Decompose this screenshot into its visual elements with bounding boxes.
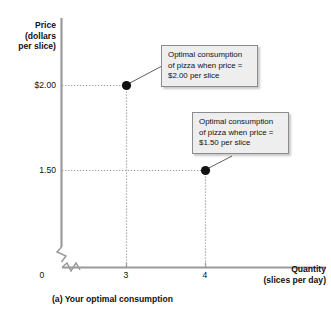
y-axis-break-icon (57, 247, 66, 262)
y-tick-label-2-00: $2.00 (8, 80, 56, 90)
figure-optimal-consumption: Price (dollars per slice) Quantity (slic… (0, 0, 331, 322)
leader-line-callout-2 (207, 156, 232, 169)
y-axis-title: Price (dollars per slice) (0, 20, 56, 52)
leader-line-callout-1 (128, 66, 162, 84)
origin-label: 0 (33, 270, 51, 280)
data-point-quantity-4 (201, 166, 210, 175)
x-tick-label-4: 4 (191, 270, 219, 280)
y-tick-label-1-50: 1.50 (8, 165, 56, 175)
annotation-callout-price-1-50: Optimal consumption of pizza when price … (192, 112, 289, 154)
x-tick-label-3: 3 (112, 270, 140, 280)
figure-caption: (a) Your optimal consumption (52, 294, 173, 304)
data-point-quantity-3 (122, 81, 131, 90)
annotation-callout-price-2-00: Optimal consumption of pizza when price … (161, 45, 258, 87)
